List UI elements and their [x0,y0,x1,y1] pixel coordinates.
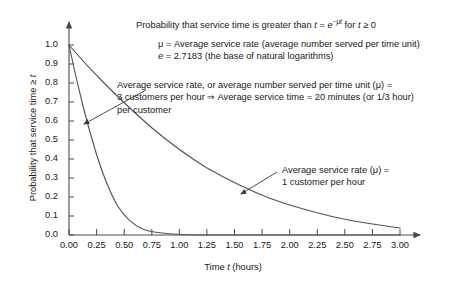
x-axis-label-prefix: Time [204,262,227,272]
callout-rate-1-line2: 1 customer per hour [282,176,389,188]
definition-mu: μ = Average service rate (average number… [158,38,420,50]
y-tick-label: 0.1 [20,210,58,220]
title-equals: = [317,20,328,30]
x-axis-label-suffix: (hours) [230,262,262,272]
y-tick-label: 0.0 [20,229,58,239]
callout-rate-3-line2: 3 customers per hour ⇒ Average service t… [117,91,414,103]
exponential-service-time-chart: 0.0 0.1 0.2 0.3 0.4 0.5 0.6 0.7 0.8 0.9 … [0,0,466,285]
y-axis-label: Probability that service time ≥ t [28,43,38,233]
y-tick-label: 0.7 [20,96,58,106]
y-tick-label: 1.0 [20,39,58,49]
x-axis-label: Time t (hours) [0,262,466,272]
chart-title-formula: Probability that service time is greater… [136,16,376,32]
y-axis-label-text: Probability that service time ≥ [28,77,38,201]
y-tick-label: 0.6 [20,115,58,125]
y-tick-label: 0.9 [20,58,58,68]
y-tick-label: 0.2 [20,191,58,201]
y-tick-label: 0.3 [20,172,58,182]
y-axis-label-var: t [28,75,38,78]
callout-rate-3-line3: per customer [117,104,414,116]
y-tick-label: 0.5 [20,134,58,144]
curve-mu-1 [69,45,400,228]
callout-rate-1-line1: Average service rate (μ) = [282,164,389,176]
leader-line-mu-1 [241,172,277,194]
callout-rate-1: Average service rate (μ) = 1 customer pe… [282,164,389,189]
definition-e-text: = 2.7183 (the base of natural logarithms… [163,51,333,61]
y-tick-label: 0.8 [20,77,58,87]
curve-mu-3 [69,45,400,235]
y-tick-label: 0.4 [20,153,58,163]
definitions-block: μ = Average service rate (average number… [158,38,420,63]
callout-rate-3-line1: Average service rate, or average number … [117,79,414,91]
title-exponent: −μt [333,18,342,25]
callout-rate-3: Average service rate, or average number … [117,79,414,116]
title-mid: for [342,20,358,30]
definition-e: e = 2.7183 (the base of natural logarith… [158,50,420,62]
x-tick-label: 3.00 [380,240,420,250]
title-prefix: Probability that service time is greater… [136,20,314,30]
x-axis-ticks [69,229,400,235]
title-suffix: ≥ 0 [361,20,376,30]
y-axis-ticks [69,45,74,235]
